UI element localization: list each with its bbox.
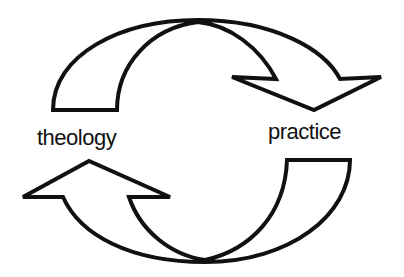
node-label-practice: practice (268, 121, 341, 143)
arrow-practice-to-theology (23, 160, 350, 262)
arrow-theology-to-practice (53, 20, 381, 110)
node-label-theology: theology (37, 127, 116, 149)
